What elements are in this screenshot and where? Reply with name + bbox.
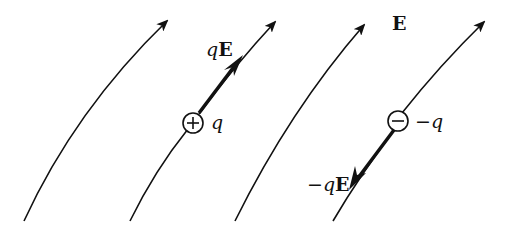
electric-field-diagram: qE q E −q −qE — [0, 0, 516, 231]
field-line-2 — [130, 129, 188, 221]
force-arrow-positive — [199, 64, 236, 113]
field-label: E — [392, 14, 406, 33]
charge-label-positive: q — [211, 113, 223, 132]
force-arrow-negative — [358, 130, 394, 178]
charge-label-negative: −q — [415, 112, 443, 131]
force-label-positive: qE — [206, 40, 233, 59]
field-line-4-upper — [402, 22, 484, 113]
force-label-negative: −qE — [307, 175, 350, 194]
